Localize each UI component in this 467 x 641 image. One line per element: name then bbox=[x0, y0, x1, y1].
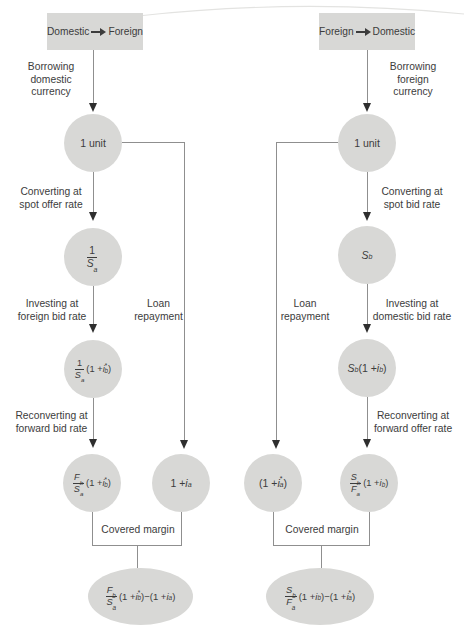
node-after-invest: 1Sa(1 + i*b) bbox=[64, 340, 122, 398]
flow-line bbox=[276, 142, 277, 441]
flow-line bbox=[92, 512, 93, 545]
covered-interest-arbitrage-diagram: Domestic Foreign Borrowing domestic curr… bbox=[0, 0, 467, 641]
arrow-down-icon bbox=[89, 324, 97, 333]
header-domestic-to-foreign: Domestic Foreign bbox=[47, 13, 143, 50]
flow-line bbox=[93, 50, 94, 104]
node-after-invest: Sb(1 + ib) bbox=[338, 339, 396, 397]
arrow-down-icon bbox=[89, 439, 97, 448]
node-loan-repay: 1 + ia bbox=[152, 454, 210, 512]
right-arrow-icon bbox=[91, 27, 106, 36]
node-after-forward: FbSa(1 + i*b) bbox=[63, 454, 121, 512]
node-one-unit: 1 unit bbox=[338, 114, 396, 172]
invest-label: Investing at domestic bid rate bbox=[369, 298, 455, 323]
header-from-label: Domestic bbox=[47, 26, 89, 37]
invest-label: Investing at foreign bid rate bbox=[12, 298, 92, 323]
flow-line bbox=[181, 512, 182, 545]
node-after-spot: Sb bbox=[338, 226, 396, 284]
arrow-down-icon bbox=[363, 439, 371, 448]
reconvert-label: Reconverting at forward bid rate bbox=[9, 410, 94, 435]
arrow-down-icon bbox=[89, 103, 97, 112]
header-foreign-to-domestic: Foreign Domestic bbox=[319, 13, 415, 50]
arrow-down-icon bbox=[363, 324, 371, 333]
reconvert-label: Reconverting at forward offer rate bbox=[369, 410, 457, 435]
arrow-down-icon bbox=[180, 440, 188, 449]
covered-margin-result: SbFa(1 + ib)−(1 + i*a) bbox=[266, 568, 374, 625]
flow-line bbox=[367, 50, 368, 104]
covered-margin-label: Covered margin bbox=[282, 524, 362, 537]
flow-line bbox=[367, 397, 368, 440]
node-after-spot: 1Sa bbox=[64, 228, 122, 286]
convert-label: Converting at spot offer rate bbox=[11, 186, 91, 211]
node-after-forward: SbFa(1 + ib) bbox=[340, 454, 398, 512]
header-to-label: Domestic bbox=[373, 26, 415, 37]
borrow-label: Borrowing foreign currency bbox=[381, 61, 445, 99]
node-loan-repay: (1 + i*a) bbox=[244, 454, 302, 512]
flow-line bbox=[137, 545, 138, 568]
flow-line bbox=[367, 284, 368, 325]
loan-repayment-label: Loan repayment bbox=[277, 298, 333, 323]
header-to-label: Foreign bbox=[108, 26, 143, 37]
flow-line bbox=[122, 142, 184, 143]
covered-margin-label: Covered margin bbox=[99, 524, 177, 537]
covered-margin-result: FbSa(1 + i*b)−(1 + ia) bbox=[88, 568, 193, 625]
arrow-down-icon bbox=[363, 212, 371, 221]
arrow-down-icon bbox=[89, 212, 97, 221]
borrow-label: Borrowing domestic currency bbox=[19, 61, 83, 99]
node-one-unit: 1 unit bbox=[64, 114, 122, 172]
flow-line bbox=[367, 172, 368, 213]
loan-repayment-label: Loan repayment bbox=[128, 298, 189, 323]
flow-line bbox=[276, 142, 338, 143]
right-arrow-icon bbox=[356, 27, 371, 36]
flow-line bbox=[273, 512, 274, 545]
flow-line bbox=[184, 142, 185, 441]
arrow-down-icon bbox=[363, 103, 371, 112]
flow-line bbox=[369, 512, 370, 545]
flow-line bbox=[93, 172, 94, 213]
flow-line bbox=[321, 545, 322, 568]
flow-line bbox=[93, 286, 94, 325]
convert-label: Converting at spot bid rate bbox=[376, 186, 448, 211]
header-from-label: Foreign bbox=[319, 26, 354, 37]
arrow-down-icon bbox=[272, 440, 280, 449]
